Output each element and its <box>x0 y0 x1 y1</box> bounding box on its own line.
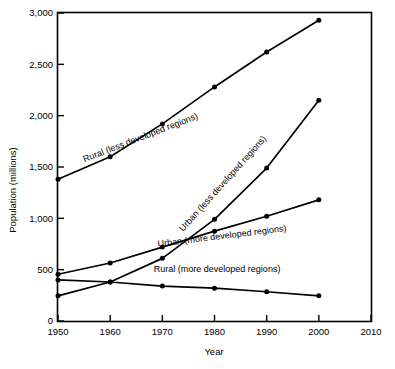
y-tick-label-1,500: 1,500 <box>29 161 53 172</box>
x-tick-label-1990: 1990 <box>256 326 277 337</box>
data-point <box>160 284 165 289</box>
data-point <box>160 256 165 261</box>
data-point <box>56 277 61 282</box>
x-tick-label-1960: 1960 <box>100 326 121 337</box>
y-tick-label-0: 0 <box>48 315 53 326</box>
data-point <box>264 214 269 219</box>
data-point <box>212 217 217 222</box>
data-point <box>56 272 61 277</box>
y-tick-label-2,000: 2,000 <box>29 110 53 121</box>
y-tick-label-3,000: 3,000 <box>29 7 53 18</box>
chart-canvas: 05001,0001,5002,0002,5003,000 1950196019… <box>0 0 395 369</box>
x-tick-label-1980: 1980 <box>204 326 225 337</box>
data-point <box>264 166 269 171</box>
data-point <box>212 84 217 89</box>
x-axis-title: Year <box>204 346 223 357</box>
data-point <box>316 197 321 202</box>
data-point <box>316 98 321 103</box>
data-point <box>56 293 61 298</box>
y-axis-title: Population (millions) <box>7 147 18 233</box>
x-tick-label-2000: 2000 <box>308 326 329 337</box>
series-label-3: Rural (more developed regions) <box>154 264 281 274</box>
x-tick-label-1950: 1950 <box>47 326 68 337</box>
x-tick-label-1970: 1970 <box>152 326 173 337</box>
x-tick-label-2010: 2010 <box>360 326 381 337</box>
y-tick-label-1,000: 1,000 <box>29 213 53 224</box>
data-point <box>212 286 217 291</box>
data-point <box>56 177 61 182</box>
data-point <box>316 293 321 298</box>
y-tick-label-2,500: 2,500 <box>29 59 53 70</box>
population-line-chart: 05001,0001,5002,0002,5003,000 1950196019… <box>0 0 395 369</box>
data-point <box>108 260 113 265</box>
data-point <box>264 289 269 294</box>
data-point <box>108 279 113 284</box>
y-tick-label-500: 500 <box>37 264 53 275</box>
data-point <box>316 18 321 23</box>
data-point <box>264 50 269 55</box>
chart-background <box>0 0 395 369</box>
